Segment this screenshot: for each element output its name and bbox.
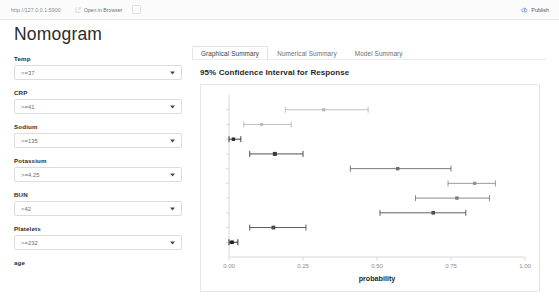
- field-label-crp: CRP: [14, 89, 182, 96]
- topbar-placeholder-box: [132, 5, 141, 14]
- sidebar-form: Temp >=37 CRP >=41 Sodium >=135 Potassiu…: [14, 55, 182, 296]
- chevron-down-icon: [170, 105, 175, 109]
- select-value-temp: >=37: [15, 70, 35, 76]
- field-crp: CRP >=41: [14, 89, 182, 114]
- select-temp[interactable]: >=37: [14, 65, 182, 80]
- url-field[interactable]: http://127.0.0.1:5900: [11, 7, 61, 13]
- select-value-bun: <42: [15, 206, 31, 212]
- select-crp[interactable]: >=41: [14, 99, 182, 114]
- external-link-icon: [75, 7, 81, 13]
- chart-title: 95% Confidence Interval for Response: [200, 68, 547, 77]
- svg-text:1.00: 1.00: [519, 263, 531, 269]
- svg-text:0.00: 0.00: [223, 263, 235, 269]
- select-bun[interactable]: <42: [14, 201, 182, 216]
- select-value-sodium: >=135: [15, 138, 38, 144]
- field-bun: BUN <42: [14, 191, 182, 216]
- field-label-platelets: Platelets: [14, 225, 182, 232]
- chevron-down-icon: [170, 71, 175, 75]
- field-label-potassium: Potassium: [14, 157, 182, 164]
- tab-bar: Graphical Summary Numerical Summary Mode…: [192, 44, 547, 60]
- page-title: Nomogram: [14, 24, 102, 45]
- open-in-browser-label: Open in Browser: [84, 7, 123, 13]
- chevron-down-icon: [170, 241, 175, 245]
- select-potassium[interactable]: >=4.25: [14, 167, 182, 182]
- svg-text:0.75: 0.75: [445, 263, 457, 269]
- chevron-down-icon: [170, 139, 175, 143]
- field-label-sodium: Sodium: [14, 123, 182, 130]
- publish-label: Publish: [531, 7, 549, 13]
- open-in-browser-button[interactable]: Open in Browser: [75, 7, 123, 13]
- field-label-age: age: [14, 259, 182, 266]
- confidence-interval-plot: 0.000.250.500.751.00probability: [201, 85, 539, 291]
- tab-bar-underline: [192, 59, 547, 60]
- chart-card: 0.000.250.500.751.00probability: [200, 84, 540, 292]
- select-value-potassium: >=4.25: [15, 172, 40, 178]
- browser-topbar: http://127.0.0.1:5900 Open in Browser Pu…: [0, 0, 559, 20]
- svg-text:probability: probability: [359, 274, 396, 283]
- field-temp: Temp >=37: [14, 55, 182, 80]
- field-potassium: Potassium >=4.25: [14, 157, 182, 182]
- field-label-temp: Temp: [14, 55, 182, 62]
- publish-button[interactable]: Publish: [521, 6, 549, 13]
- select-sodium[interactable]: >=135: [14, 133, 182, 148]
- chevron-down-icon: [170, 173, 175, 177]
- chevron-down-icon: [170, 207, 175, 211]
- main-panel: Graphical Summary Numerical Summary Mode…: [192, 44, 547, 296]
- svg-text:0.50: 0.50: [371, 263, 383, 269]
- select-value-platelets: >=232: [15, 240, 38, 246]
- select-platelets[interactable]: >=232: [14, 235, 182, 250]
- field-label-bun: BUN: [14, 191, 182, 198]
- select-value-crp: >=41: [15, 104, 35, 110]
- field-sodium: Sodium >=135: [14, 123, 182, 148]
- publish-cloud-icon: [521, 6, 528, 13]
- svg-text:0.25: 0.25: [297, 263, 309, 269]
- field-platelets: Platelets >=232: [14, 225, 182, 250]
